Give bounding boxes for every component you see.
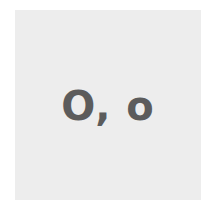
letter-pair-text: O, o: [61, 83, 155, 129]
letter-card: O, o: [15, 10, 201, 200]
